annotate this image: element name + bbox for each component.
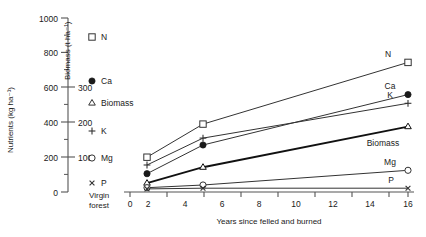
virgin-forest-line-1: Virgin [89, 191, 109, 200]
x-tick-labels: 0 2 4 6 8 10 12 14 16 [128, 199, 413, 209]
marker-open-circle [405, 167, 411, 173]
series-end-label-Mg: Mg [384, 157, 396, 167]
xtick-0: 0 [128, 199, 133, 209]
virgin-forest-note: Virgin forest [89, 191, 110, 210]
legend-label-K: K [101, 126, 107, 136]
xtick-14: 14 [365, 199, 375, 209]
marker-filled-circle [144, 171, 150, 177]
marker-filled-circle [200, 142, 206, 148]
marker-plus [405, 100, 412, 107]
series-end-label-Ca: Ca [385, 81, 396, 91]
legend-item-N[interactable]: N [89, 32, 107, 42]
virgin-forest-line-2: forest [89, 201, 110, 210]
y-axis-right-label: Biomass (t ha⁻¹) [63, 21, 72, 80]
ytick-left-600: 600 [44, 83, 58, 93]
xtick-6: 6 [220, 199, 225, 209]
y-axis-left-label: Nutrients (kg ha⁻¹) [6, 87, 15, 153]
marker-open-circle [200, 182, 206, 188]
marker-open-circle [144, 185, 150, 191]
series-end-label-N: N [385, 49, 391, 59]
legend-item-Biomass[interactable]: Biomass [89, 98, 134, 108]
legend-item-Ca[interactable]: Ca [89, 76, 112, 86]
series-end-label-Biomass: Biomass [367, 138, 400, 148]
legend: N Ca Biomass K Mg [89, 32, 134, 188]
filled-circle-icon [89, 78, 95, 84]
marker-plus [200, 135, 207, 142]
plus-icon [89, 128, 96, 135]
ytick-left-0: 0 [53, 188, 58, 198]
biomass-tick-labels: 300 200 100 [78, 83, 92, 163]
open-square-icon [89, 34, 95, 40]
marker-plus [144, 162, 151, 169]
marker-open-square [405, 59, 411, 65]
ytick-right-200: 200 [78, 118, 92, 128]
xtick-2: 2 [146, 199, 151, 209]
x-axis-label: Years since felled and burned [216, 217, 321, 226]
marker-filled-circle [405, 92, 411, 98]
x-axis [124, 192, 414, 197]
chart-canvas: 1000 800 600 400 200 0 Nutrients (kg ha⁻… [0, 0, 426, 237]
left-y-tick-labels: 1000 800 600 400 200 0 [39, 14, 58, 198]
series-P [145, 186, 411, 192]
nutrient-accumulation-chart: 1000 800 600 400 200 0 Nutrients (kg ha⁻… [0, 0, 426, 237]
xtick-4: 4 [183, 199, 188, 209]
legend-label-P: P [101, 178, 107, 188]
legend-label-Ca: Ca [101, 76, 112, 86]
legend-item-K[interactable]: K [89, 126, 107, 136]
legend-label-N: N [101, 32, 107, 42]
ytick-left-400: 400 [44, 118, 58, 128]
marker-open-square [200, 121, 206, 127]
series-end-label-P: P [388, 175, 394, 185]
chart-figure: 1000 800 600 400 200 0 Nutrients (kg ha⁻… [0, 0, 426, 237]
ytick-left-1000: 1000 [39, 14, 58, 24]
xtick-10: 10 [291, 199, 301, 209]
series-Biomass [144, 123, 412, 185]
series-Mg [144, 167, 411, 191]
legend-item-Mg[interactable]: Mg [89, 153, 113, 163]
biomass-axis [68, 87, 75, 157]
legend-label-Mg: Mg [101, 153, 113, 163]
ytick-left-800: 800 [44, 48, 58, 58]
xtick-8: 8 [257, 199, 262, 209]
cross-x-icon [90, 181, 95, 186]
ytick-left-200: 200 [44, 153, 58, 163]
marker-open-square [144, 154, 150, 160]
xtick-12: 12 [328, 199, 338, 209]
open-triangle-icon [89, 100, 96, 106]
legend-item-P[interactable]: P [90, 178, 107, 188]
marker-open-triangle [405, 123, 412, 129]
xtick-16: 16 [403, 199, 413, 209]
open-circle-icon [89, 155, 95, 161]
legend-label-Biomass: Biomass [101, 98, 134, 108]
